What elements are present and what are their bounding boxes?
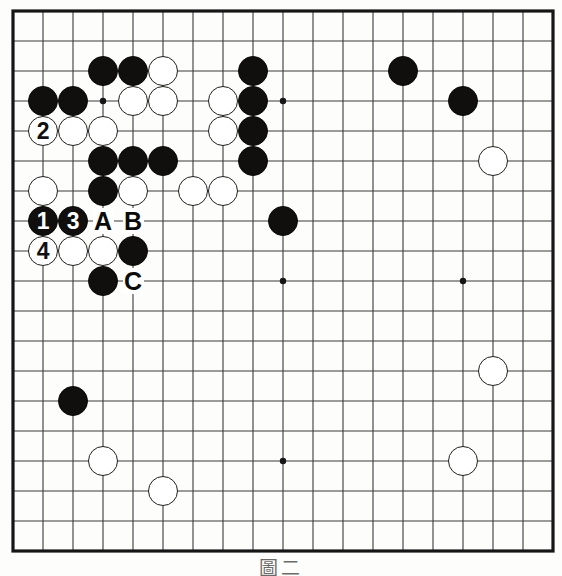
stone-number-label: 2 [37, 120, 49, 143]
figure-caption: 圖二 [0, 556, 562, 576]
go-board[interactable]: 2134ABC [0, 0, 562, 560]
go-diagram-figure: 2134ABC 圖二 [0, 0, 562, 576]
stone-number-label: 1 [37, 210, 49, 233]
stone-number-label: 3 [67, 210, 79, 233]
board-grid [0, 0, 562, 560]
stone-number-label: 4 [37, 240, 49, 263]
